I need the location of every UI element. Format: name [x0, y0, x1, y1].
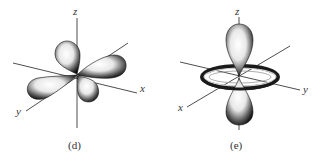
- lobe-right-large: [77, 55, 126, 78]
- y-axis-label: y: [302, 83, 308, 95]
- z-axis-label: z: [234, 5, 240, 17]
- lobe-upper-small: [55, 41, 80, 74]
- z-axis-label: z: [72, 5, 78, 17]
- lobe-left-large: [27, 75, 77, 99]
- lobe-lower-small: [77, 76, 99, 102]
- x-axis-label: x: [139, 82, 145, 94]
- caption-e: (e): [230, 139, 243, 152]
- y-axis-label: y: [15, 105, 21, 117]
- x-axis-label: x: [177, 101, 183, 113]
- figure-d: z x y (d): [13, 5, 145, 152]
- lobe-bottom: [226, 78, 253, 125]
- orbital-diagrams: z x y (d) z y x (e): [0, 0, 322, 160]
- figure-e: z y x (e): [177, 5, 308, 152]
- caption-d: (d): [68, 139, 81, 152]
